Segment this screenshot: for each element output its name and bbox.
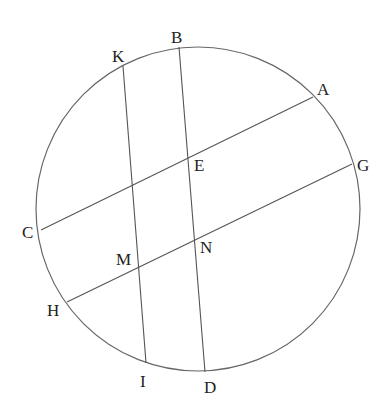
label-e: E (194, 156, 204, 175)
label-i: I (140, 372, 146, 391)
label-m: M (116, 250, 131, 269)
label-n: N (200, 238, 212, 257)
label-a: A (317, 80, 330, 99)
label-c: C (22, 223, 33, 242)
label-g: G (357, 156, 369, 175)
chord-bd (179, 47, 205, 372)
chord-gh (67, 164, 352, 302)
label-d: D (204, 378, 216, 397)
chord-ac (41, 97, 313, 230)
label-k: K (112, 47, 125, 66)
geometry-diagram: K B A E G C M N H I D (0, 0, 390, 412)
label-b: B (171, 28, 182, 47)
chord-ki (123, 66, 146, 363)
label-h: H (47, 301, 59, 320)
